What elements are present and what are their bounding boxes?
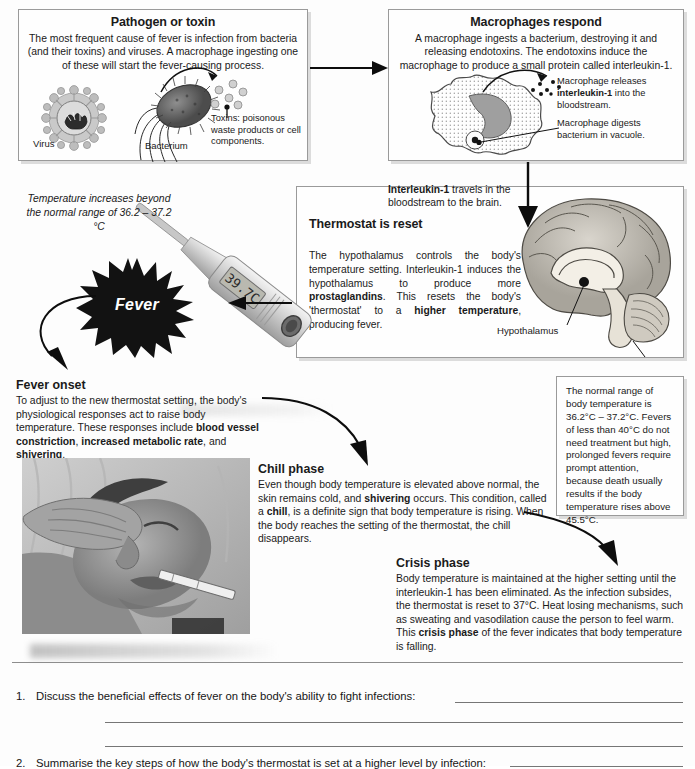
panel-macrophage-title: Macrophages respond [389,15,683,29]
block-chill-phase: Chill phase Even though body temperature… [258,462,548,546]
arrow-pathogen-to-macrophage-icon [310,61,388,75]
panel-thermostat-text: The hypothalamus controls the body's tem… [309,249,521,332]
chill-phase-text: Even though body temperature is elevated… [258,478,548,546]
caption-bacterium: Bacterium [145,140,188,151]
macrophage-release-note-part1: Macrophage releases [557,76,646,86]
fever-star-label: Fever [76,296,198,314]
crisis-phase-heading: Crisis phase [396,556,688,570]
question-1-number: 1. [16,690,25,702]
arrow-bacterium-to-toxins-icon [159,62,229,100]
scan-artifact-bottom [30,644,278,658]
fever-onset-text: To adjust to the new thermostat setting,… [16,394,266,462]
annotation-interleukin-travels: Interleukin-1 travels in the bloodstream… [388,183,536,210]
arrow-macrophage-to-interleukin-icon [481,66,559,96]
macrophage-release-note: Macrophage releases interleukin-1 into t… [557,76,677,111]
patient-photo [22,458,250,634]
fever-starburst: Fever [76,258,198,358]
panel-pathogen-or-toxin: Pathogen or toxin The most frequent caus… [18,9,308,161]
chill-text-3: , is a definite sign that body temperatu… [258,506,543,544]
panel-pathogen-title: Pathogen or toxin [19,15,307,29]
block-crisis-phase: Crisis phase Body temperature is maintai… [396,556,688,653]
normal-range-text: The normal range of body temperature is … [566,385,676,527]
caption-virus: Virus [33,138,54,149]
chill-phase-heading: Chill phase [258,462,548,476]
panel-macrophages-respond: Macrophages respond A macrophage ingests… [388,9,684,161]
fever-onset-bold-2: increased metabolic rate [81,436,203,447]
question-2-number: 2. [16,757,25,769]
answer-line-1a[interactable] [455,702,683,703]
chill-bold-shivering: shivering [364,493,410,504]
macrophage-digest-note: Macrophage digests bacterium in vacuole. [557,118,677,142]
chill-bold-chill: chill [267,506,288,517]
hypothalamus-label: Hypothalamus [497,325,558,336]
panel-normal-temperature-range: The normal range of body temperature is … [556,376,684,516]
section-divider [12,662,683,663]
question-1-text: Discuss the beneficial effects of fever … [36,690,456,702]
fever-onset-text-3: , and [203,436,226,447]
question-2-text: Summarise the key steps of how the body'… [36,757,506,769]
fever-onset-heading: Fever onset [16,378,266,392]
toxin-note: Toxins: poisonous waste products or cell… [211,113,303,148]
panel-thermostat-is-reset: Thermostat is reset The hypothalamus con… [296,186,684,358]
interleukin-travels-bold: Interleukin-1 [388,184,449,195]
crisis-phase-text: Body temperature is maintained at the hi… [396,572,688,653]
crisis-bold-crisis-phase: crisis phase [419,627,479,638]
annotation-temperature-increase: Temperature increases beyond the normal … [24,192,174,233]
answer-line-1c[interactable] [105,746,683,747]
thermostat-text-1: The hypothalamus controls the body's tem… [309,250,521,289]
pointer-vacuole-icon [471,126,563,146]
answer-line-2a[interactable] [510,766,683,767]
block-fever-onset: Fever onset To adjust to the new thermos… [16,378,266,462]
answer-line-1b[interactable] [105,722,683,723]
macrophage-release-note-bold: interleukin-1 [557,88,612,98]
thermostat-bold-higher-temperature: higher temperature [414,305,518,316]
